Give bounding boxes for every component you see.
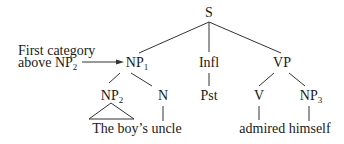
node-pst: Pst bbox=[200, 89, 217, 103]
arrow-icon bbox=[82, 60, 124, 65]
node-vp: VP bbox=[273, 56, 291, 70]
node-s: S bbox=[205, 6, 213, 20]
node-v: V bbox=[254, 89, 264, 103]
node-np2: NP2 bbox=[101, 89, 123, 103]
node-np1: NP1 bbox=[126, 56, 148, 70]
node-n: N bbox=[158, 89, 168, 103]
node-np3: NP3 bbox=[300, 89, 322, 103]
leaf-predicate: admired himself bbox=[239, 122, 330, 136]
leaf-subject: The boy’s uncle bbox=[92, 122, 181, 136]
annotation-line2: above NP2 bbox=[18, 56, 77, 70]
node-infl: Infl bbox=[199, 56, 219, 70]
